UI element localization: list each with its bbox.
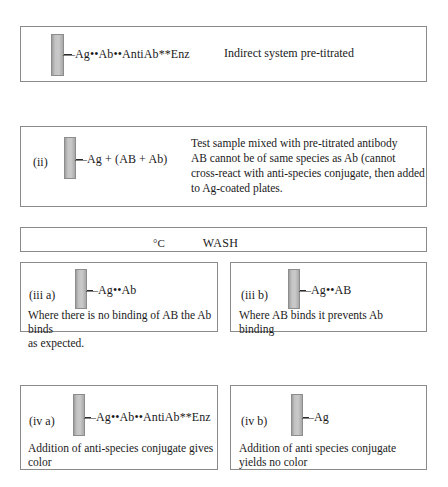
panel2-formula: —Ag + (AB + Ab) — [75, 152, 167, 167]
panel1-formula: —Ag••Ab••AntiAb**Enz — [63, 47, 190, 62]
panel4b-caption-line: Addition of anti species conjugate — [239, 441, 427, 455]
panel3b-step-label: (iii b) — [241, 288, 268, 303]
wash-step-bar: °C WASH — [20, 227, 427, 252]
panel3a-caption: Where there is no binding of AB the Ab b… — [28, 308, 218, 350]
panel3a-caption-line: as expected. — [28, 336, 218, 350]
panel3a-step-label: (iii a) — [29, 288, 55, 303]
panel4a-formula: —Ag••Ab••AntiAb**Enz — [84, 410, 211, 425]
color-development-panel: (iv a) —Ag••Ab••AntiAb**Enz Addition of … — [20, 385, 218, 470]
panel2-note-line: to Ag-coated plates. — [191, 181, 425, 196]
panel2-step-label: (ii) — [33, 155, 48, 170]
panel4a-caption: Addition of anti-species conjugate gives… — [28, 441, 218, 469]
panel3a-caption-line: Where there is no binding of AB the Ab b… — [28, 308, 218, 336]
panel3b-caption-line: Where AB binds it prevents Ab — [239, 308, 427, 322]
temperature-value: °C — [153, 237, 165, 249]
panel4a-caption-line: Addition of anti-species conjugate gives — [28, 441, 218, 455]
panel2-note-line: Test sample mixed with pre-titrated anti… — [191, 136, 425, 151]
no-binding-panel: (iii a) —Ag••Ab Where there is no bindin… — [20, 262, 218, 332]
panel4a-step-label: (iv a) — [29, 414, 55, 429]
panel3b-formula: —Ag••AB — [299, 283, 351, 298]
wash-row-content: °C WASH — [153, 233, 238, 251]
panel3b-caption-line: binding — [239, 322, 427, 336]
panel1-note: Indirect system pre-titrated — [224, 47, 354, 60]
panel2-note: Test sample mixed with pre-titrated anti… — [191, 136, 425, 196]
panel4b-formula: —Ag — [302, 410, 329, 425]
panel4b-caption: Addition of anti species conjugate yield… — [239, 441, 427, 469]
panel2-note-line: AB cannot be of same species as Ab (cann… — [191, 151, 425, 166]
panel3a-formula: —Ag••Ab — [86, 283, 136, 298]
panel3b-caption: Where AB binds it prevents Ab binding — [239, 308, 427, 336]
test-sample-panel: (ii) —Ag + (AB + Ab) Test sample mixed w… — [20, 126, 427, 207]
panel4b-caption-line: yields no color — [239, 455, 427, 469]
panel4b-step-label: (iv b) — [241, 414, 267, 429]
no-color-panel: (iv b) —Ag Addition of anti species conj… — [230, 385, 427, 470]
wash-label: WASH — [203, 236, 239, 250]
panel2-note-line: cross-react with anti-species conjugate,… — [191, 166, 425, 181]
ab-blocked-panel: (iii b) —Ag••AB Where AB binds it preven… — [230, 262, 427, 332]
indirect-system-panel: —Ag••Ab••AntiAb**Enz Indirect system pre… — [20, 26, 427, 82]
panel4a-caption-line: color — [28, 455, 218, 469]
